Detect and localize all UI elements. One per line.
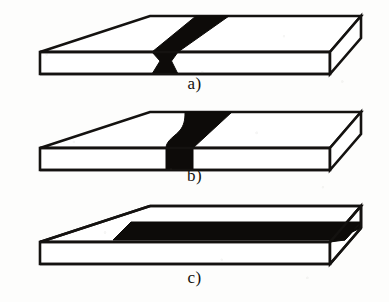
- plate-front-face-c: [40, 242, 330, 264]
- plate-diagram-c: c): [0, 192, 389, 302]
- plate-front-face-a: [40, 52, 330, 74]
- caption-a: a): [0, 74, 389, 94]
- caption-c: c): [0, 268, 389, 288]
- figure-root: a) b): [0, 0, 389, 302]
- plate-diagram-b: b): [0, 96, 389, 196]
- plate-diagram-a: a): [0, 0, 389, 100]
- defect-top-band-c: [113, 222, 361, 240]
- caption-b: b): [0, 166, 389, 186]
